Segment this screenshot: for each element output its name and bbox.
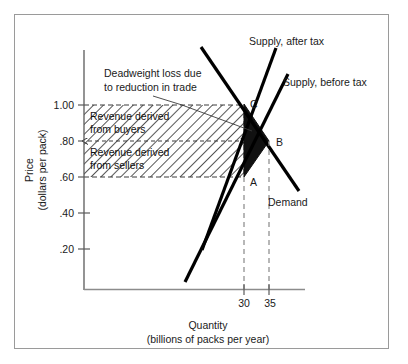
point-label-c: C xyxy=(250,98,258,110)
y-tick-label-1.00: 1.00 xyxy=(54,99,75,111)
figure-container: 1.00 .80 .60 .40 .20 30 35 Price (dollar… xyxy=(0,0,408,364)
label-revenue-from-sellers-line1: Revenue derived xyxy=(90,146,170,158)
label-revenue-from-buyers-line1: Revenue derived xyxy=(90,110,170,122)
y-tick-label-0.40: .40 xyxy=(59,207,74,219)
point-label-b: B xyxy=(276,136,283,148)
y-tick-label-0.80: .80 xyxy=(59,135,74,147)
y-tick-label-0.60: .60 xyxy=(59,171,74,183)
annotation-deadweight-line1: Deadweight loss due xyxy=(104,67,202,79)
annotation-deadweight-line2: to reduction in trade xyxy=(104,81,197,93)
label-supply-before-tax: Supply, before tax xyxy=(283,76,368,88)
y-axis-title: Price xyxy=(23,158,35,182)
y-axis-subtitle: (dollars per pack) xyxy=(36,129,48,210)
x-axis-title: Quantity xyxy=(188,319,228,331)
point-label-a: A xyxy=(250,176,257,188)
label-revenue-from-sellers-line2: from sellers xyxy=(90,159,144,171)
label-supply-after-tax: Supply, after tax xyxy=(249,35,325,47)
label-demand: Demand xyxy=(268,196,308,208)
x-tick-label-35: 35 xyxy=(264,297,276,309)
x-tick-label-30: 30 xyxy=(238,297,250,309)
chart-svg: 1.00 .80 .60 .40 .20 30 35 Price (dollar… xyxy=(0,0,408,364)
x-axis-subtitle: (billions of packs per year) xyxy=(147,333,270,345)
y-tick-label-0.20: .20 xyxy=(59,243,74,255)
label-revenue-from-buyers-line2: from buyers xyxy=(90,123,145,135)
